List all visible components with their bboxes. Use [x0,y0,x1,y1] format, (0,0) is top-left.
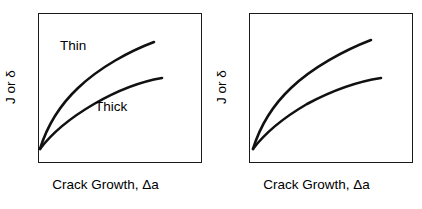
figure-container: J or δ Thin Thick Crack Growth, Δa J or … [0,0,422,209]
curve-thin [40,42,154,149]
x-axis-label-left: Crack Growth, Δa [0,177,211,192]
chart-panel-left: J or δ Thin Thick Crack Growth, Δa [0,0,211,209]
y-axis-label-left: J or δ [0,12,22,162]
x-axis-label-right: Crack Growth, Δa [211,177,422,192]
curves-left [38,13,202,163]
curve-tension [253,40,371,149]
curve-label-thick: Thick [95,99,127,114]
curves-right [249,13,413,163]
chart-panel-right: J or δ Tension Bending Crack Growth, Δa [211,0,422,209]
curve-label-thin: Thin [60,38,86,53]
curve-bending [253,78,381,149]
y-axis-label-right: J or δ [211,12,233,162]
